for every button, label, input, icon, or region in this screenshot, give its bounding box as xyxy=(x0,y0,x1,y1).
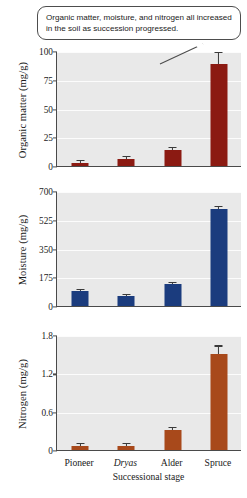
plot-area-nitrogen: 00.61.21.8 xyxy=(56,336,241,451)
bar xyxy=(210,209,227,306)
x-axis-tick-label: Pioneer xyxy=(64,457,93,468)
bar xyxy=(72,291,89,306)
error-bar-cap xyxy=(169,282,177,283)
y-axis-label-moisture: Moisture (mg/g) xyxy=(17,190,28,310)
figure-soil-succession: Organic matter, moisture, and nitrogen a… xyxy=(0,0,247,498)
error-bar xyxy=(218,207,219,209)
error-bar xyxy=(218,347,219,355)
x-axis-tick-label: Alder xyxy=(161,457,183,468)
y-axis-tick-mark xyxy=(53,249,57,250)
error-bar-cap xyxy=(122,294,130,295)
y-axis-tick-mark xyxy=(53,166,57,167)
bar xyxy=(72,446,89,450)
error-bar xyxy=(172,428,173,429)
error-bar-cap xyxy=(215,206,223,207)
error-bar-cap xyxy=(76,289,84,290)
y-axis-tick-mark xyxy=(53,306,57,307)
chart-panel-organic-matter: 0255075100 Organic matter (mg/g) xyxy=(0,46,247,174)
x-axis-tick-label: Dryas xyxy=(114,457,137,468)
y-axis-tick-mark xyxy=(53,335,57,336)
error-bar xyxy=(126,295,127,296)
x-axis-category-labels: PioneerDryasAlderSpruce xyxy=(56,457,241,471)
bar xyxy=(118,446,135,450)
y-axis-tick-mark xyxy=(53,278,57,279)
error-bar-cap xyxy=(169,427,177,428)
y-axis-tick-mark xyxy=(53,51,57,52)
y-axis-tick-mark xyxy=(53,138,57,139)
gridline xyxy=(57,192,241,193)
bar xyxy=(118,296,135,306)
error-bar xyxy=(172,283,173,284)
y-axis-tick-mark xyxy=(53,220,57,221)
bar xyxy=(164,284,181,306)
error-bar-cap xyxy=(122,156,130,157)
y-axis-tick-mark xyxy=(53,109,57,110)
bar xyxy=(72,163,89,166)
bar xyxy=(164,430,181,450)
bar xyxy=(210,64,227,166)
bar xyxy=(210,354,227,450)
bar xyxy=(118,159,135,166)
y-axis-tick-mark xyxy=(53,450,57,451)
error-bar xyxy=(172,148,173,150)
y-axis-label-nitrogen: Nitrogen (mg/g) xyxy=(17,334,28,454)
gridline xyxy=(57,336,241,337)
chart-panel-nitrogen: 00.61.21.8 Nitrogen (mg/g) PioneerDryasA… xyxy=(0,330,247,458)
error-bar-cap xyxy=(169,147,177,148)
chart-panel-moisture: 0175350525700 Moisture (mg/g) xyxy=(0,186,247,314)
y-axis-label-organic-matter: Organic matter (mg/g) xyxy=(17,38,28,182)
error-bar xyxy=(80,444,81,446)
y-axis-tick-mark xyxy=(53,80,57,81)
y-axis-tick-mark xyxy=(53,412,57,413)
x-axis-tick-label: Spruce xyxy=(205,457,232,468)
error-bar-cap xyxy=(76,443,84,444)
error-bar-cap xyxy=(215,345,223,346)
y-axis-tick-mark xyxy=(53,191,57,192)
bar xyxy=(164,150,181,166)
error-bar xyxy=(126,157,127,159)
x-axis-title: Successional stage xyxy=(56,471,241,482)
error-bar-cap xyxy=(215,52,223,53)
gridline xyxy=(57,52,241,53)
error-bar-cap xyxy=(122,443,130,444)
plot-area-organic-matter: 0255075100 xyxy=(56,52,241,167)
y-axis-tick-mark xyxy=(53,374,57,375)
annotation-callout: Organic matter, moisture, and nitrogen a… xyxy=(37,6,241,40)
error-bar-cap xyxy=(76,160,84,161)
plot-area-moisture: 0175350525700 xyxy=(56,192,241,307)
error-bar xyxy=(80,161,81,162)
error-bar xyxy=(126,444,127,446)
error-bar xyxy=(80,290,81,291)
error-bar xyxy=(218,53,219,63)
